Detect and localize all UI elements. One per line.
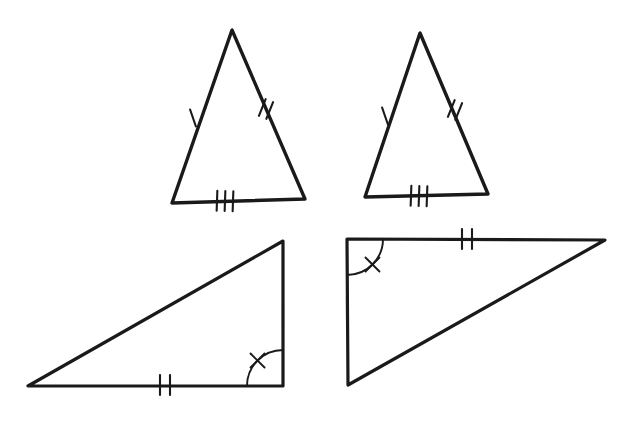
geometry-figure: Congruent Triangles Diagram: [0, 0, 628, 421]
tick-group-single-left-leg-t2: [382, 107, 388, 124]
triangle-bottom-left: [28, 241, 283, 395]
triangle-top-right: [365, 33, 488, 206]
tick-mark: [233, 191, 234, 211]
tick-mark: [419, 186, 420, 206]
triangle-bottom-right: [347, 229, 605, 385]
triangle-top-left: [172, 30, 305, 211]
tick-mark: [427, 186, 428, 206]
tick-mark: [382, 107, 388, 124]
geometry-canvas: [0, 0, 628, 421]
tick-mark: [190, 109, 196, 126]
tick-group-single-left-leg-t1: [190, 109, 196, 126]
triangle-top-right-fill: [365, 33, 488, 197]
tick-mark: [455, 103, 462, 120]
tick-mark: [225, 191, 226, 211]
tick-mark: [217, 191, 218, 211]
tick-mark: [411, 186, 412, 206]
